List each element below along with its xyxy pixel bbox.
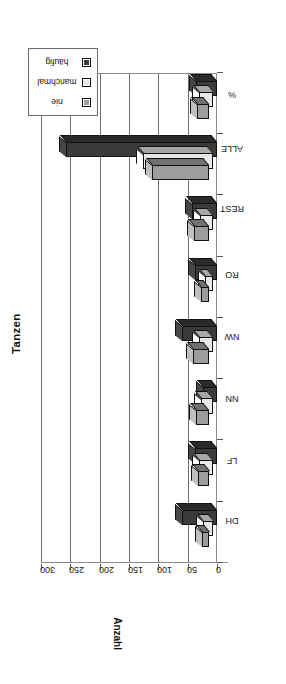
bar-face [193, 349, 209, 364]
legend: niemanchmalhäufig [28, 48, 98, 116]
bar-lf-nie [198, 471, 210, 486]
bar-nw-nie [193, 349, 209, 364]
category-label-lf: LF [227, 456, 238, 466]
legend-swatch-icon [82, 98, 91, 107]
bar-group-dh [41, 510, 217, 555]
value-tick-label: 50 [187, 565, 197, 575]
legend-swatch-icon [82, 58, 91, 67]
bar-side [176, 503, 217, 510]
bar-face [152, 165, 209, 180]
bar-group-ro [41, 265, 217, 310]
legend-label: häufig [45, 57, 68, 67]
category-label-nw: NW [225, 331, 240, 341]
legend-label-wrap: häufig [35, 57, 79, 68]
bar-face [194, 226, 209, 241]
value-axis-title: Anzahl [112, 617, 123, 650]
legend-item-häufig[interactable]: häufig [35, 57, 91, 68]
bar-face [202, 532, 210, 547]
category-label-nn: NN [226, 393, 239, 403]
value-tick-label: 200 [99, 565, 114, 575]
category-tick-mark [217, 195, 223, 196]
bar-group-lf [41, 448, 217, 493]
bar-face [198, 471, 210, 486]
bar-side [176, 319, 217, 326]
bar-%-nie [197, 104, 209, 119]
bar-side [189, 442, 217, 449]
category-label-rest: REST [220, 204, 244, 214]
category-tick-mark [217, 440, 223, 441]
legend-items: niemanchmalhäufig [35, 57, 91, 108]
bar-rest-nie [194, 226, 209, 241]
category-tick-mark [217, 501, 223, 502]
category-tick-mark [217, 256, 223, 257]
bar-ro-nie [201, 287, 209, 302]
value-axis: 050100150200250300 [34, 564, 224, 610]
value-tick-label: 300 [40, 565, 55, 575]
bar-face [201, 287, 209, 302]
bar-alle-nie [152, 165, 209, 180]
legend-label: nie [51, 98, 62, 108]
category-label-%: % [228, 90, 236, 100]
value-tick-label: 250 [69, 565, 84, 575]
value-tick-label: 100 [157, 565, 172, 575]
bar-group-nw [41, 326, 217, 371]
legend-label-wrap: manchmal [35, 77, 79, 88]
bar-side [137, 147, 213, 154]
bar-group-rest [41, 203, 217, 248]
category-tick-mark [217, 133, 223, 134]
category-tick-mark [217, 562, 223, 563]
bar-side [187, 197, 217, 204]
value-tick-label: 0 [216, 565, 221, 575]
legend-label-wrap: nie [35, 97, 79, 108]
bar-group-nn [41, 387, 217, 432]
value-tick-label: 150 [128, 565, 143, 575]
bar-group-alle [41, 142, 217, 187]
category-label-ro: RO [225, 271, 239, 281]
legend-item-manchmal[interactable]: manchmal [35, 77, 91, 88]
bar-side [146, 158, 209, 165]
category-axis: DHLFNNNWRORESTALLE% [228, 73, 268, 563]
bar-side [189, 258, 217, 265]
category-label-dh: DH [226, 516, 239, 526]
category-tick-mark [217, 72, 223, 73]
category-tick-mark [217, 317, 223, 318]
rotated-figure: Tanzen 050100150200250300 Anzahl DHLFNNN… [0, 0, 286, 684]
category-tick-mark [217, 378, 223, 379]
bar-face [196, 410, 209, 425]
bar-side [60, 135, 217, 142]
chart-screenshot: Tanzen 050100150200250300 Anzahl DHLFNNN… [0, 0, 286, 684]
category-label-alle: ALLE [221, 144, 243, 154]
bar-nn-nie [196, 410, 209, 425]
legend-swatch-icon [82, 78, 91, 87]
legend-item-nie[interactable]: nie [35, 97, 91, 108]
legend-label: manchmal [37, 78, 76, 88]
bar-face [197, 104, 209, 119]
chart-title: Tanzen [10, 313, 22, 354]
bar-dh-nie [202, 532, 210, 547]
